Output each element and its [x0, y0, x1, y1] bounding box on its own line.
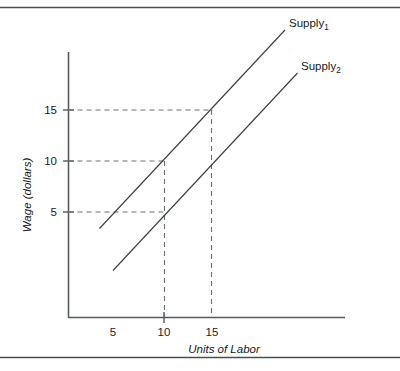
supply1-curve: [100, 30, 286, 229]
y-axis-title: Wage (dollars): [21, 158, 33, 233]
supply1-label: Supply1: [289, 17, 329, 32]
supply-curve-plot: Supply1 Supply2 15 10 5 5 10 15 Units of…: [0, 0, 400, 371]
y-tick-label-15: 15: [44, 104, 57, 116]
supply2-label: Supply2: [301, 60, 341, 75]
supply-curve-figure: Supply1 Supply2 15 10 5 5 10 15 Units of…: [0, 0, 400, 371]
y-tick-label-5: 5: [51, 206, 57, 218]
x-tick-label-5: 5: [110, 326, 116, 338]
y-tick-label-10: 10: [44, 155, 57, 167]
supply2-curve: [113, 73, 298, 271]
x-axis-title: Units of Labor: [188, 343, 261, 355]
x-tick-label-15: 15: [206, 326, 219, 338]
x-tick-label-10: 10: [158, 326, 171, 338]
